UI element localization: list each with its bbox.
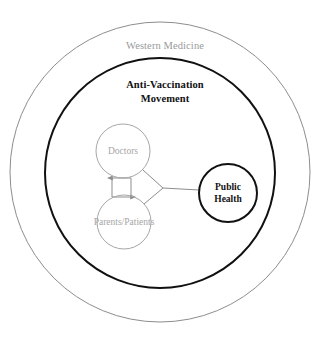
- label-parents-patients: Parents/Patients: [64, 217, 184, 228]
- label-anti-vaccination-movement: Anti-Vaccination Movement: [0, 78, 330, 105]
- label-public-health-line2: Health: [188, 193, 268, 205]
- label-anti-vaccination-line2: Movement: [0, 92, 330, 106]
- label-doctors: Doctors: [63, 146, 183, 157]
- label-public-health-line1: Public: [188, 181, 268, 193]
- connector-parents-to-junction: [144, 188, 163, 204]
- label-public-health: Public Health: [188, 181, 268, 206]
- connector-doctors-to-junction: [143, 170, 163, 188]
- ring-western-medicine: [10, 22, 310, 322]
- label-western-medicine: Western Medicine: [0, 40, 330, 52]
- diagram-canvas: Western Medicine Anti-Vaccination Moveme…: [0, 0, 330, 346]
- label-anti-vaccination-line1: Anti-Vaccination: [0, 78, 330, 92]
